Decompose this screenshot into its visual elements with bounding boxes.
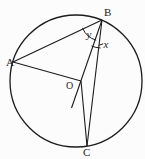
label-point-a: A	[6, 56, 14, 68]
label-center-o: O	[66, 80, 73, 91]
geometry-figure: A B C O y x	[0, 0, 145, 159]
label-point-b: B	[104, 6, 111, 18]
label-point-c: C	[83, 146, 90, 158]
label-angle-y: y	[86, 28, 92, 40]
circle-diagram-canvas: A B C O y x	[0, 0, 145, 159]
label-angle-x: x	[103, 38, 109, 50]
